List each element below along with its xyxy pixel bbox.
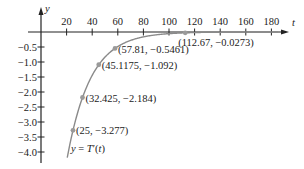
axes: 20406080100120140160180−0.5−1.0−1.5−2.0−… bbox=[18, 3, 296, 163]
y-tick-label: −4.0 bbox=[18, 147, 37, 158]
data-point bbox=[80, 95, 85, 100]
y-tick-label: −3.0 bbox=[18, 117, 37, 128]
y-tick-label: −2.0 bbox=[18, 87, 37, 98]
data-point bbox=[71, 128, 76, 133]
curve-label: y = T′(t) bbox=[70, 143, 105, 155]
x-tick-label: 60 bbox=[113, 16, 124, 27]
x-tick-label: 160 bbox=[238, 16, 254, 27]
x-tick-label: 180 bbox=[264, 16, 280, 27]
data-point-label: (25, −3.277) bbox=[76, 125, 129, 137]
data-point bbox=[96, 62, 101, 67]
x-tick-label: 20 bbox=[61, 16, 72, 27]
x-tick-label: 120 bbox=[187, 16, 203, 27]
y-tick-label: −3.5 bbox=[18, 132, 37, 143]
labels: (25, −3.277)(32.425, −2.184)(45.1175, −1… bbox=[70, 37, 254, 155]
x-tick-label: 40 bbox=[87, 16, 98, 27]
y-tick-label: −1.0 bbox=[18, 57, 37, 68]
data-point-label: (32.425, −2.184) bbox=[86, 93, 157, 105]
data-point-label: (45.1175, −1.092) bbox=[102, 60, 178, 72]
y-tick-label: −2.5 bbox=[18, 102, 37, 113]
data-point bbox=[113, 46, 118, 51]
x-tick-label: 80 bbox=[138, 16, 149, 27]
x-tick-label: 140 bbox=[212, 16, 228, 27]
chart: 20406080100120140160180−0.5−1.0−1.5−2.0−… bbox=[0, 0, 304, 169]
x-axis-label: t bbox=[292, 17, 296, 28]
x-axis-arrow-icon bbox=[281, 30, 289, 35]
y-tick-label: −0.5 bbox=[18, 42, 37, 53]
y-tick-label: −1.5 bbox=[18, 72, 37, 83]
data-point bbox=[183, 30, 188, 35]
x-tick-label: 100 bbox=[161, 16, 177, 27]
y-axis-label: y bbox=[44, 3, 50, 14]
data-point-label: (112.67, −0.0273) bbox=[178, 37, 254, 49]
y-axis-arrow-icon bbox=[39, 7, 44, 15]
